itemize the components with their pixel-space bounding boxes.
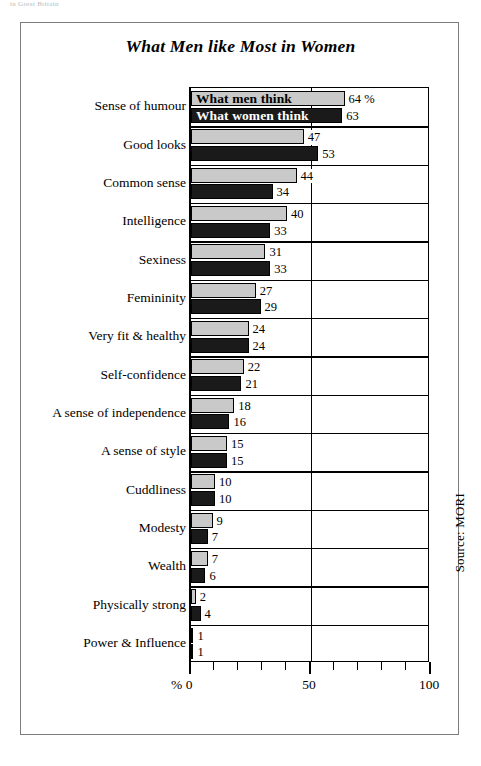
chart-row[interactable]: 97 [191,510,431,548]
chart-row[interactable]: 3133 [191,241,431,279]
chart-row[interactable]: 11 [191,625,431,663]
bar-women[interactable] [191,491,215,506]
bar-value-label: 10 [216,475,234,490]
bar-value-label: 53 [319,147,337,162]
bar-men[interactable] [191,474,215,489]
category-label: Physically strong [26,598,186,612]
bar-value-label: 63 [343,109,361,124]
x-tick-40 [285,662,286,670]
x-axis-percent-sign: % [171,678,182,692]
bar-men[interactable] [191,513,213,528]
bar-value-label: 18 [235,399,253,414]
category-label: Sense of humour [26,99,186,113]
bar-women[interactable] [191,414,229,429]
bar-value-label: 21 [242,377,260,392]
bar-value-label: 24 [250,339,268,354]
category-label: Femininity [26,291,186,305]
plot-area: 64 %What men think63What women think4753… [189,87,429,662]
bar-value-label: 31 [266,245,284,260]
category-label: Intelligence [26,214,186,228]
bar-value-label: 29 [262,300,280,315]
bar-value-label: 4 [202,607,213,622]
chart-row[interactable]: 2424 [191,318,431,356]
bar-women[interactable] [191,453,227,468]
bar-value-label: 33 [271,262,289,277]
bar-women[interactable] [191,261,270,276]
bar-men[interactable] [191,359,244,374]
bar-men[interactable] [191,244,265,259]
bar-men[interactable] [191,398,234,413]
bar-women[interactable] [191,146,318,161]
bar-men[interactable] [191,129,304,144]
bar-value-label: 7 [209,552,220,567]
category-label-column: Sense of humourGood looksCommon senseInt… [24,87,186,662]
chart-row[interactable]: 4033 [191,203,431,241]
bar-women[interactable] [191,338,249,353]
category-label: Common sense [26,176,186,190]
chart-row[interactable]: 1515 [191,433,431,471]
bar-value-label: 2 [197,590,208,605]
bar-women[interactable] [191,529,208,544]
chart-row[interactable]: 4434 [191,165,431,203]
bar-value-label: 44 [298,169,316,184]
bar-women[interactable] [191,223,270,238]
bar-value-label: 16 [230,415,248,430]
category-label: Cuddliness [26,483,186,497]
bar-value-label: 1 [194,645,205,660]
bar-women[interactable] [191,568,205,583]
legend-label-women: What women think [196,108,309,123]
bar-value-label: 10 [216,492,234,507]
chart-row[interactable]: 1816 [191,395,431,433]
page-top-fragment: in Great Britain [10,0,59,8]
bar-men[interactable] [191,436,227,451]
x-tick-30 [261,662,262,670]
category-label: Wealth [26,559,186,573]
bar-men[interactable] [191,321,249,336]
bar-value-label: 27 [257,284,275,299]
category-label: A sense of independence [26,406,186,420]
bar-value-label: 15 [228,437,246,452]
bar-men[interactable] [191,283,256,298]
category-label: Modesty [26,521,186,535]
x-tick-80 [381,662,382,670]
bar-value-label: 15 [228,454,246,469]
chart-row[interactable]: 2729 [191,280,431,318]
chart-row[interactable]: 64 %What men think63What women think [191,88,431,126]
bar-men[interactable] [191,551,208,566]
chart-row[interactable]: 4753 [191,126,431,164]
category-label: Very fit & healthy [26,329,186,343]
bar-women[interactable] [191,606,201,621]
x-tick-100 [429,662,431,674]
bar-men[interactable] [191,206,287,221]
chart-row[interactable]: 76 [191,548,431,586]
bar-value-label: 64 % [346,92,377,107]
bar-men[interactable] [191,589,196,604]
bar-women[interactable] [191,644,193,659]
source-note: Source: MORI [452,493,468,572]
category-label: Power & Influence [26,636,186,650]
x-tick-60 [333,662,334,670]
chart-row[interactable]: 24 [191,586,431,624]
bar-value-label: 22 [245,360,263,375]
bar-women[interactable] [191,299,261,314]
bar-women[interactable] [191,184,273,199]
bar-men[interactable] [191,168,297,183]
x-tick-90 [405,662,406,670]
chart-title: What Men like Most in Women [21,36,460,57]
category-label: Self-confidence [26,368,186,382]
category-label: Good looks [26,138,186,152]
x-tick-label-100: 100 [409,678,449,692]
bar-value-label: 47 [305,130,323,145]
chart-row[interactable]: 1010 [191,471,431,509]
bar-value-label: 9 [214,514,225,529]
category-label: Sexiness [26,253,186,267]
chart-row[interactable]: 2221 [191,356,431,394]
bar-value-label: 40 [288,207,306,222]
x-tick-20 [237,662,238,670]
category-label: A sense of style [26,444,186,458]
bar-men[interactable] [191,628,193,643]
bar-value-label: 1 [194,629,205,644]
bar-value-label: 33 [271,224,289,239]
bar-women[interactable] [191,376,241,391]
legend-label-men: What men think [196,91,292,106]
